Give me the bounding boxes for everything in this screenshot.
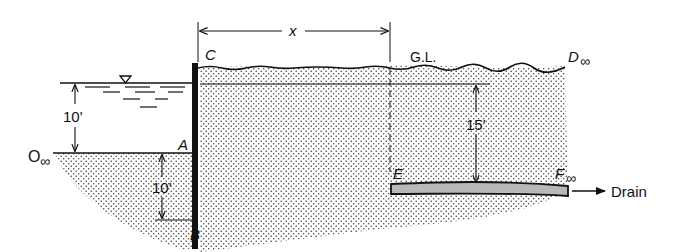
water-level-triangle-icon: [120, 76, 131, 83]
drain-pipe: [391, 182, 568, 196]
ground-level-label: G.L.: [410, 49, 436, 65]
water-depth-label: 10': [63, 108, 83, 125]
point-a-label: A: [177, 136, 188, 153]
soil-right-region: [200, 66, 568, 252]
point-e-label: E: [393, 165, 404, 182]
embedment-depth-label: 10': [152, 179, 172, 196]
point-d-infinity: ∞: [580, 53, 590, 69]
point-b-label: B: [190, 226, 200, 243]
soil-left-region: [55, 153, 192, 250]
drain-depth-label: 15': [466, 116, 486, 133]
point-o-label: O: [28, 148, 40, 165]
seepage-diagram: x 10' 10' 15' Drain C G.L. D ∞ A B O ∞ E…: [0, 0, 685, 252]
point-c-label: C: [205, 46, 216, 63]
point-f-infinity: ∞: [566, 170, 576, 186]
point-d-label: D: [568, 48, 579, 65]
sheet-pile: [192, 63, 198, 249]
x-label: x: [288, 22, 297, 39]
point-f-label: F: [555, 165, 565, 182]
water-ripples: [85, 87, 185, 107]
drain-label: Drain: [611, 183, 647, 200]
point-o-infinity: ∞: [40, 153, 50, 169]
